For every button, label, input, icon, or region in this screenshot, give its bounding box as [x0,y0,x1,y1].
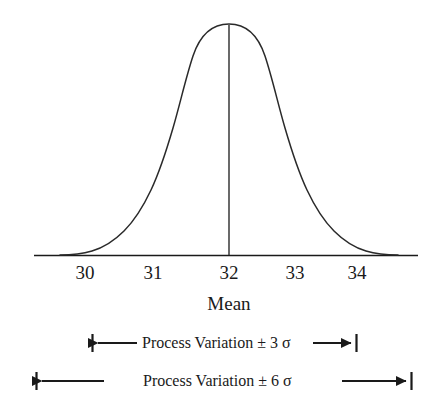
sigma3-span-label: Process Variation ± 3 σ [138,335,295,351]
bell-curve-diagram [0,0,442,418]
x-tick-label-34: 34 [337,263,377,282]
sigma6-span-label: Process Variation ± 6 σ [139,373,296,389]
x-axis-title-mean: Mean [169,294,289,313]
x-tick-label-32: 32 [209,263,249,282]
figure-canvas: 30 31 32 33 34 Mean Process Variation ± … [0,0,442,418]
x-tick-label-30: 30 [65,263,105,282]
x-tick-label-31: 31 [133,263,173,282]
x-tick-label-33: 33 [275,263,315,282]
